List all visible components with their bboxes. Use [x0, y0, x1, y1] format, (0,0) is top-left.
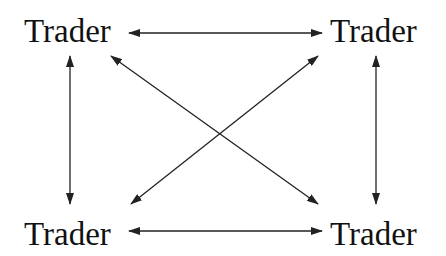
trader-network-diagram: Trader Trader Trader Trader — [0, 0, 446, 256]
arrow-diagonal-tr-bl — [131, 56, 318, 204]
arrow-diagonal-tl-br — [111, 56, 318, 204]
arrows-layer — [0, 0, 446, 256]
